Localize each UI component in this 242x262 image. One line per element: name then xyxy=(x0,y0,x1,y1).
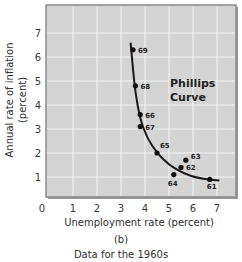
y-tick-label: 4 xyxy=(35,100,41,111)
y-tick-label: 6 xyxy=(35,52,41,63)
data-point-63 xyxy=(183,158,188,163)
y-tick-label: 3 xyxy=(35,124,41,135)
y-axis-ticks: 1234567 xyxy=(35,28,41,183)
data-point-62 xyxy=(178,165,183,170)
data-point-label: 63 xyxy=(191,153,201,161)
x-tick-label: 5 xyxy=(166,203,172,214)
data-point-label: 67 xyxy=(145,124,155,132)
data-point-61 xyxy=(207,177,212,182)
curve-label: Phillips xyxy=(170,77,216,90)
x-tick-label: 2 xyxy=(94,203,100,214)
data-point-64 xyxy=(171,172,176,177)
y-axis-title-line1: Annual rate of inflation xyxy=(4,43,15,158)
x-tick-label: 3 xyxy=(118,203,124,214)
y-tick-label: 7 xyxy=(35,28,41,39)
x-tick-label: 6 xyxy=(190,203,196,214)
data-point-label: 69 xyxy=(138,47,148,55)
x-axis-ticks: 01234567 xyxy=(39,203,220,214)
data-point-label: 64 xyxy=(168,180,178,188)
data-point-68 xyxy=(133,83,138,88)
y-tick-label: 1 xyxy=(35,172,41,183)
data-point-65 xyxy=(154,150,159,155)
panel-label: (b) xyxy=(0,234,242,245)
x-tick-label: 1 xyxy=(70,203,76,214)
x-tick-label: 4 xyxy=(142,203,148,214)
data-point-66 xyxy=(138,112,143,117)
data-point-label: 62 xyxy=(186,164,196,172)
data-point-69 xyxy=(130,47,135,52)
data-point-label: 65 xyxy=(160,142,170,150)
y-tick-label: 5 xyxy=(35,76,41,87)
plot-area xyxy=(46,5,238,199)
data-point-label: 68 xyxy=(140,83,150,91)
x-tick-label: 7 xyxy=(214,203,220,214)
data-point-label: 61 xyxy=(207,183,217,191)
chart-subtitle: Data for the 1960s xyxy=(0,249,242,260)
y-tick-label: 2 xyxy=(35,148,41,159)
phillips-curve-chart: 616263646566676869 01234567 1234567 Phil… xyxy=(0,0,242,262)
data-point-label: 66 xyxy=(145,112,155,120)
curve-label: Curve xyxy=(170,91,206,104)
data-point-67 xyxy=(138,124,143,129)
x-axis-title: Unemployment rate (percent) xyxy=(64,217,214,228)
x-tick-label: 0 xyxy=(39,203,45,214)
y-axis-title-line2: (percent) xyxy=(17,77,28,123)
